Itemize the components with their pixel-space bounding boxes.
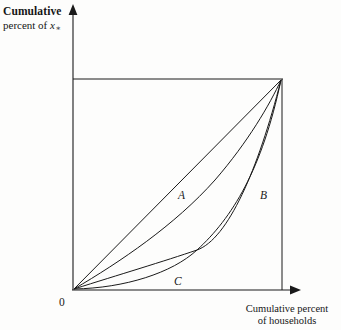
- x-axis-arrowhead: [290, 286, 301, 295]
- y-axis-label-line1: Cumulative: [3, 4, 91, 18]
- y-axis-label-subscript: ∗: [55, 24, 61, 33]
- y-axis: [69, 4, 78, 290]
- y-axis-label-line2-prefix: percent of: [3, 19, 50, 31]
- line-of-equality: [74, 80, 281, 289]
- y-axis-label: Cumulative percent of x∗: [3, 4, 91, 34]
- x-axis-label: Cumulative percent of households: [233, 302, 341, 327]
- origin-label: 0: [59, 296, 65, 308]
- curve-label-b: B: [260, 189, 267, 201]
- lorenz-curve-figure: Cumulative percent of x∗ Cumulative perc…: [0, 0, 341, 330]
- x-axis-label-line2: of households: [233, 314, 341, 327]
- curve-label-a: A: [178, 189, 185, 201]
- y-axis-label-line2: percent of x∗: [3, 19, 91, 34]
- plot-canvas: [0, 0, 341, 330]
- curve-label-c: C: [174, 275, 182, 287]
